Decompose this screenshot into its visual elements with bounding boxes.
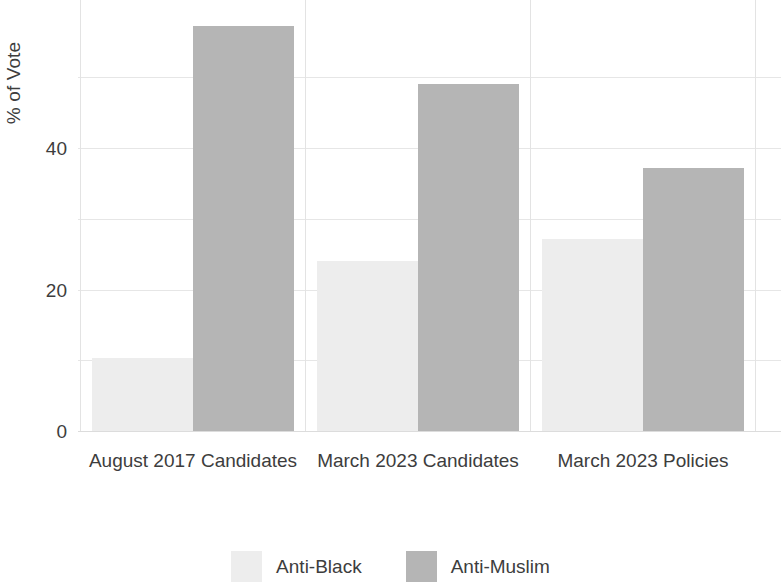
legend-item-anti-black[interactable]: Anti-Black <box>231 551 362 582</box>
chart-legend: Anti-BlackAnti-Muslim <box>0 546 781 587</box>
x-axis-label-2: March 2023 Candidates <box>305 449 531 473</box>
bar-anti-black-group-1[interactable] <box>92 358 193 431</box>
plot-area <box>78 0 781 432</box>
legend-swatch-icon <box>231 551 262 582</box>
group-separator-3 <box>755 0 756 431</box>
bar-anti-muslim-group-1[interactable] <box>193 26 294 431</box>
x-axis-labels: August 2017 CandidatesMarch 2023 Candida… <box>78 449 781 479</box>
legend-item-anti-muslim[interactable]: Anti-Muslim <box>406 551 550 582</box>
gridline-50 <box>78 77 781 78</box>
bar-anti-black-group-3[interactable] <box>542 239 643 431</box>
legend-label: Anti-Black <box>276 557 362 576</box>
group-separator-2 <box>530 0 531 431</box>
bar-chart: % of Vote 40 20 0 August 2017 Candidates… <box>0 0 781 587</box>
y-tick-label-40: 40 <box>7 139 67 158</box>
group-separator-1 <box>305 0 306 431</box>
bar-anti-black-group-2[interactable] <box>317 261 418 432</box>
x-axis-label-3: March 2023 Policies <box>530 449 756 473</box>
gridline-0 <box>78 431 781 432</box>
y-tick-label-20: 20 <box>7 281 67 300</box>
y-tick-label-0: 0 <box>7 422 67 441</box>
group-separator-0 <box>80 0 81 431</box>
legend-swatch-icon <box>406 551 437 582</box>
bar-anti-muslim-group-3[interactable] <box>643 168 744 431</box>
bar-anti-muslim-group-2[interactable] <box>418 84 519 431</box>
x-axis-label-1: August 2017 Candidates <box>80 449 306 473</box>
legend-label: Anti-Muslim <box>451 557 550 576</box>
